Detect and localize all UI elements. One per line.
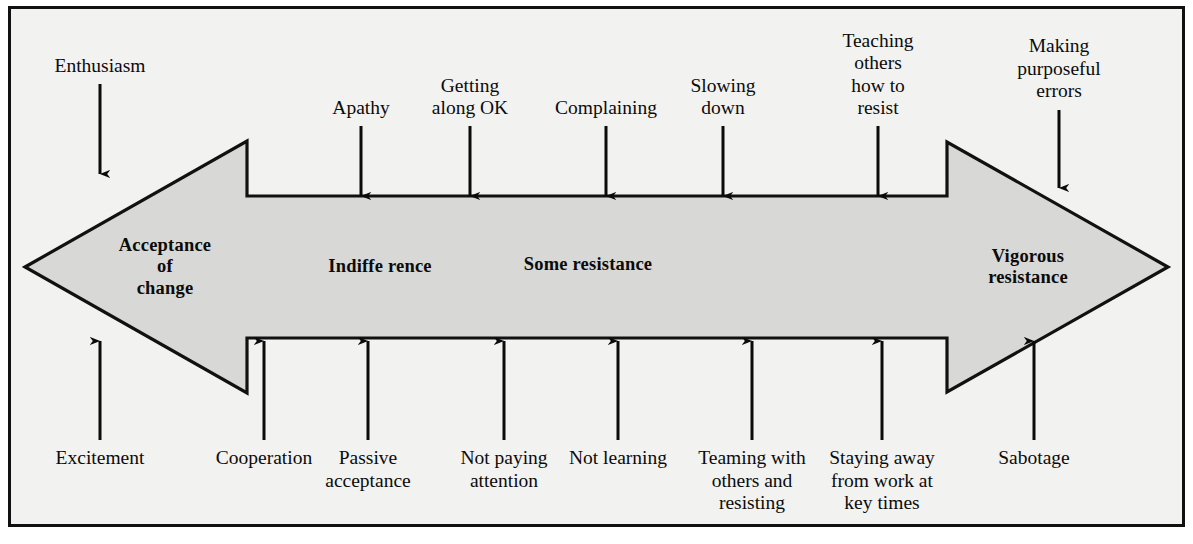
band-label-some-resistance: Some resistance [468, 254, 708, 275]
band-label-vigorous-resistance: Vigorous resistance [908, 246, 1148, 289]
resistance-to-change-figure: EnthusiasmApathyGetting along OKComplain… [0, 0, 1193, 544]
band-label-indifference: Indiffe rence [260, 256, 500, 277]
band-label-acceptance-of-change: Acceptance of change [45, 235, 285, 299]
annotation-label-enthusiasm: Enthusiasm [0, 0, 205, 78]
annotation-label-teaching-others-how-to-resist: Teaching others how to resist [773, 0, 983, 120]
annotation-label-sabotage: Sabotage [929, 447, 1139, 470]
annotation-label-making-purposeful-errors: Making purposeful errors [954, 0, 1164, 103]
